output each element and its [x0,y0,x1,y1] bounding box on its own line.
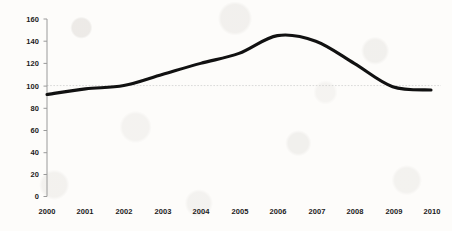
line-chart: 160 140 120 100 80 60 40 20 0 2000 2001 … [0,0,452,231]
y-tick-label-120: 120 [13,59,39,68]
x-tick-label-2003: 2003 [143,207,183,216]
x-tick-label-2009: 2009 [374,207,414,216]
y-tick-label-20: 20 [13,170,39,179]
x-tick-label-2006: 2006 [258,207,298,216]
y-tick-label-140: 140 [13,37,39,46]
x-tick-label-2010: 2010 [412,207,452,216]
x-tick-label-2001: 2001 [65,207,105,216]
y-tick-label-160: 160 [13,15,39,24]
y-tick-label-80: 80 [13,104,39,113]
x-tick-label-2007: 2007 [297,207,337,216]
y-tick-label-0: 0 [13,192,39,201]
y-tick-label-40: 40 [13,148,39,157]
x-tick-label-2005: 2005 [220,207,260,216]
chart-plot-area [0,0,452,231]
x-tick-label-2002: 2002 [104,207,144,216]
y-tick-label-100: 100 [13,82,39,91]
x-tick-label-2000: 2000 [27,207,67,216]
x-tick-label-2004: 2004 [181,207,221,216]
x-tick-label-2008: 2008 [335,207,375,216]
y-tick-label-60: 60 [13,126,39,135]
y-axis-ticks [44,19,48,197]
